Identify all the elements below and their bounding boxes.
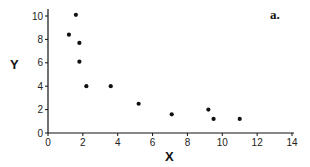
x-axis: 02468101214: [45, 133, 298, 148]
data-point: [170, 112, 174, 116]
x-tick-label: 4: [115, 137, 121, 148]
data-point: [77, 60, 81, 64]
x-tick-label: 8: [185, 137, 191, 148]
data-point: [238, 117, 242, 121]
data-point: [211, 117, 215, 121]
y-tick-label: 0: [37, 128, 43, 139]
x-tick-label: 2: [80, 137, 86, 148]
x-tick-label: 6: [150, 137, 156, 148]
y-tick-label: 6: [37, 57, 43, 68]
y-axis: 0246810: [32, 9, 48, 139]
scatter-chart: 0246810 02468101214 Y X a.: [0, 0, 310, 167]
data-point: [77, 41, 81, 45]
x-tick-label: 0: [45, 137, 51, 148]
y-tick-label: 2: [37, 104, 43, 115]
data-point: [74, 13, 78, 17]
data-point: [137, 102, 141, 106]
y-tick-label: 4: [37, 81, 43, 92]
data-point: [84, 84, 88, 88]
x-tick-label: 10: [217, 137, 229, 148]
data-points: [67, 13, 242, 121]
data-point: [109, 84, 113, 88]
data-point: [67, 33, 71, 37]
x-tick-label: 14: [286, 137, 298, 148]
x-tick-label: 12: [252, 137, 264, 148]
data-point: [206, 108, 210, 112]
y-axis-label: Y: [10, 57, 19, 72]
panel-label: a.: [270, 7, 280, 22]
y-tick-label: 10: [32, 11, 44, 22]
y-tick-label: 8: [37, 34, 43, 45]
x-axis-label: X: [165, 149, 174, 164]
